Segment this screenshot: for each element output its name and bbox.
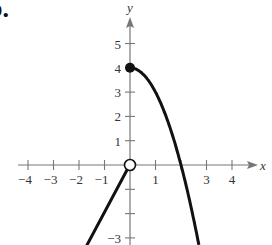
x-axis-name: x: [259, 158, 266, 173]
y-tick-label: 3: [115, 85, 122, 100]
y-tick-label: −3: [107, 231, 121, 245]
x-tick-label: 1: [152, 172, 159, 187]
open-circle-marker: [125, 160, 136, 171]
axes: [18, 17, 258, 245]
piecewise-function-graph: −4−3−2−1134−312345xy: [0, 0, 272, 245]
x-tick-label: −1: [95, 172, 109, 187]
closed-dot-marker: [125, 63, 135, 73]
x-tick-label: 3: [203, 172, 210, 187]
axis-labels: −4−3−2−1134−312345xy: [18, 0, 266, 245]
x-tick-label: −3: [44, 172, 58, 187]
y-tick-label: 1: [115, 134, 122, 149]
x-tick-label: −4: [18, 172, 32, 187]
y-tick-label: 4: [115, 61, 122, 76]
x-tick-label: 4: [229, 172, 236, 187]
x-tick-label: −2: [69, 172, 83, 187]
curves: [87, 63, 199, 245]
y-axis-name: y: [125, 0, 133, 15]
y-tick-label: 5: [115, 37, 122, 52]
y-tick-label: 2: [115, 109, 122, 124]
parabola-piece: [130, 68, 199, 245]
